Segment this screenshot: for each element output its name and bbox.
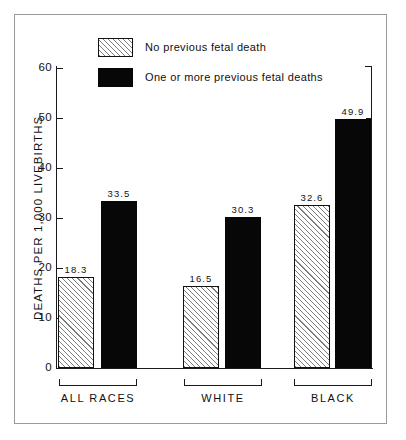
legend-label-no-previous-fetal-death: No previous fetal death (145, 41, 266, 53)
right-axis-top-cap (365, 66, 372, 67)
bar-value-all-races-no-previous-fetal-death: 18.3 (56, 264, 96, 275)
y-tick-50 (57, 118, 63, 119)
bar-value-black-one-or-more-previous-fetal-deaths: 49.9 (333, 106, 373, 117)
plot-area: No previous fetal death One or more prev… (0, 0, 406, 440)
chart-figure: No previous fetal death One or more prev… (0, 0, 406, 440)
group-bracket-white (184, 379, 262, 386)
category-label-all-races: ALL RACES (38, 392, 158, 404)
y-tick-40 (57, 168, 63, 169)
bar-white-one-or-more-previous-fetal-deaths (225, 217, 261, 369)
bar-value-white-one-or-more-previous-fetal-deaths: 30.3 (223, 204, 263, 215)
bar-white-no-previous-fetal-death (183, 286, 219, 369)
bar-value-white-no-previous-fetal-death: 16.5 (181, 273, 221, 284)
x-axis-line (56, 368, 373, 369)
y-tick-label-60: 60 (26, 61, 52, 73)
legend-swatch-one-or-more-previous-fetal-deaths (98, 68, 133, 87)
bar-all-races-one-or-more-previous-fetal-deaths (101, 201, 137, 369)
group-bracket-black (294, 379, 372, 386)
bar-all-races-no-previous-fetal-death (58, 277, 94, 369)
bar-value-black-no-previous-fetal-death: 32.6 (292, 192, 332, 203)
group-bracket-all-races (59, 379, 137, 386)
y-tick-60 (57, 68, 63, 69)
y-tick-label-0: 0 (26, 361, 52, 373)
y-tick-30 (57, 218, 63, 219)
bar-black-one-or-more-previous-fetal-deaths (335, 119, 371, 369)
legend-swatch-no-previous-fetal-death (98, 38, 133, 57)
y-axis-title: DEATHS PER 1,000 LIVEBIRTHS (32, 120, 44, 320)
bar-black-no-previous-fetal-death (294, 205, 330, 368)
bar-value-all-races-one-or-more-previous-fetal-deaths: 33.5 (99, 188, 139, 199)
category-label-black: BLACK (273, 392, 393, 404)
legend-label-one-or-more-previous-fetal-deaths: One or more previous fetal deaths (145, 71, 323, 83)
category-label-white: WHITE (163, 392, 283, 404)
